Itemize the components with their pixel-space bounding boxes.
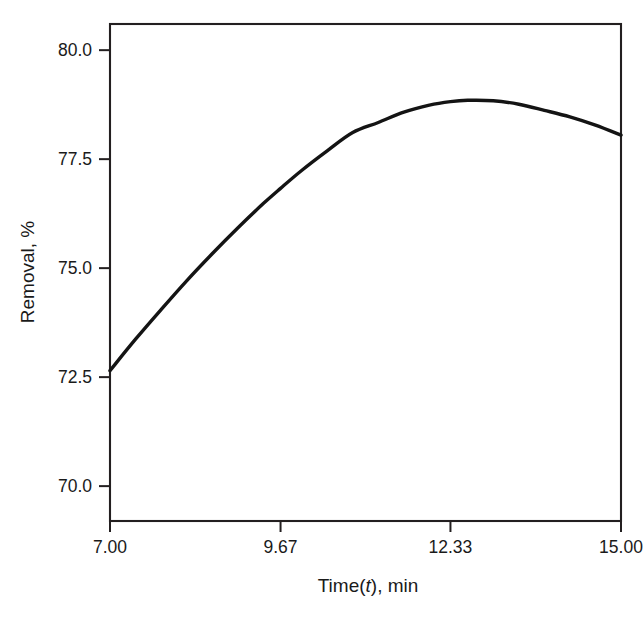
y-tick-label: 80.0 (58, 40, 92, 60)
x-tick-label: 12.33 (429, 537, 473, 557)
removal-vs-time-chart: 70.072.575.077.580.0 7.009.6712.3315.00 … (0, 0, 643, 617)
plot-frame (110, 24, 621, 521)
y-axis-title: Removal, % (17, 221, 38, 324)
y-tick-label: 70.0 (58, 476, 92, 496)
data-curve-removal (110, 100, 621, 370)
x-axis-title-post: ), min (371, 575, 419, 596)
x-axis-title-pre: Time( (318, 575, 367, 596)
y-tick-label: 72.5 (58, 367, 92, 387)
x-tick-label: 9.67 (264, 537, 298, 557)
y-tick-label: 77.5 (58, 149, 92, 169)
x-axis-title: Time(t), min (318, 575, 419, 596)
x-axis-ticks: 7.009.6712.3315.00 (93, 521, 643, 557)
y-tick-label: 75.0 (58, 258, 92, 278)
plot-area-frame (110, 24, 621, 521)
x-tick-label: 7.00 (93, 537, 127, 557)
figure-container: 70.072.575.077.580.0 7.009.6712.3315.00 … (0, 0, 643, 617)
x-tick-label: 15.00 (599, 537, 643, 557)
y-axis-ticks: 70.072.575.077.580.0 (58, 40, 110, 496)
